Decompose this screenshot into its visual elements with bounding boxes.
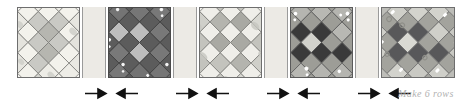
block-2-patchwork xyxy=(109,8,170,77)
quilt-block-4[interactable] xyxy=(290,7,353,78)
quilt-block-2[interactable] xyxy=(108,7,171,78)
sashing-strip-2 xyxy=(173,7,197,78)
quilt-block-1[interactable] xyxy=(17,7,80,78)
sashing-strip-3 xyxy=(264,7,288,78)
quilt-row-diagram: Make 6 rows xyxy=(0,0,471,107)
quilt-block-5[interactable] xyxy=(381,7,455,78)
make-rows-label: Make 6 rows xyxy=(398,88,454,99)
block-3-patchwork xyxy=(200,8,261,77)
block-4-patchwork xyxy=(291,8,352,77)
sashing-strip-1 xyxy=(82,7,106,78)
arrow-right-4 xyxy=(357,87,383,100)
sashing-strip-4 xyxy=(355,7,379,78)
arrow-left-1 xyxy=(113,87,139,100)
arrow-right-2 xyxy=(175,87,201,100)
arrow-right-1 xyxy=(84,87,110,100)
block-5-patchwork xyxy=(382,8,454,77)
quilt-block-3[interactable] xyxy=(199,7,262,78)
arrow-right-3 xyxy=(266,87,292,100)
arrow-left-3 xyxy=(295,87,321,100)
arrow-left-2 xyxy=(204,87,230,100)
block-1-patchwork xyxy=(18,8,79,77)
